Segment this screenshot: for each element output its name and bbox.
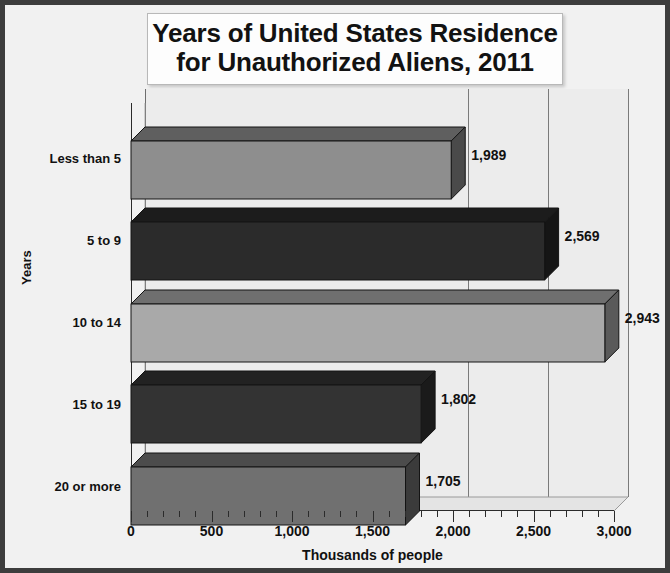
x-axis-major-tick [534,511,535,522]
x-axis-minor-tick [195,511,196,517]
x-axis-minor-tick [163,511,164,517]
x-axis-minor-tick [469,511,470,517]
x-axis-minor-tick [324,511,325,517]
x-axis-minor-tick [228,511,229,517]
x-axis-ticks [131,511,616,523]
x-axis-major-tick [453,511,454,522]
x-axis-major-tick [614,511,615,522]
x-axis-major-tick [212,511,213,522]
x-axis-tick-label: 1,500 [355,523,390,539]
x-axis-major-tick [373,511,374,522]
x-axis-major-tick [292,511,293,522]
x-axis-minor-tick [356,511,357,517]
chart-container: Years of United States Residence for Una… [0,0,670,573]
bar-value-label: 1,705 [426,473,461,489]
x-axis-minor-tick [421,511,422,517]
x-axis-minor-tick [147,511,148,517]
y-axis-tick-label: 15 to 19 [73,397,121,412]
x-axis-minor-tick [550,511,551,517]
x-axis-minor-tick [405,511,406,517]
x-axis-tick-label: 2,500 [516,523,551,539]
bar [131,127,465,199]
y-axis-tick-label: 20 or more [55,479,121,494]
chart-title-line-1: Years of United States Residence [152,19,558,48]
x-axis-tick-label: 1,000 [274,523,309,539]
y-axis-tick-labels: Less than 5 5 to 9 10 to 14 15 to 19 20 … [5,103,121,511]
x-axis-minor-tick [179,511,180,517]
x-axis-minor-tick [389,511,390,517]
bar [131,371,435,443]
bar-value-label: 1,989 [471,147,506,163]
x-axis-minor-tick [244,511,245,517]
bar-value-label: 2,943 [625,310,660,326]
x-axis-tick-label: 500 [200,523,223,539]
x-axis-minor-tick [340,511,341,517]
chart-title: Years of United States Residence for Una… [147,13,563,85]
bar [131,290,619,362]
x-axis-minor-tick [437,511,438,517]
x-axis-tick-label: 0 [127,523,135,539]
y-axis-tick-label: 5 to 9 [87,233,121,248]
x-axis-tick-label: 2,000 [435,523,470,539]
x-axis-title: Thousands of people [131,547,614,563]
bar-3d-faces [131,208,561,282]
y-axis-tick-label: 10 to 14 [73,315,121,330]
x-axis-tick-labels: 05001,0001,5002,0002,5003,000 [5,523,670,545]
bar-value-label: 1,802 [441,391,476,407]
x-axis-minor-tick [276,511,277,517]
chart-title-line-2: for Unauthorized Aliens, 2011 [152,48,558,77]
x-axis-minor-tick [598,511,599,517]
x-axis-minor-tick [308,511,309,517]
x-axis-minor-tick [582,511,583,517]
x-axis-tick-label: 3,000 [596,523,631,539]
bar-value-label: 2,569 [565,228,600,244]
bar-3d-faces [131,290,621,364]
x-axis-minor-tick [501,511,502,517]
x-axis-minor-tick [517,511,518,517]
x-axis-major-tick [131,511,132,522]
bar [131,208,559,280]
gridline-3000 [628,89,629,497]
x-axis-minor-tick [260,511,261,517]
plot-area [131,103,614,511]
x-axis-minor-tick [566,511,567,517]
bar-3d-faces [131,371,437,445]
x-axis-minor-tick [485,511,486,517]
bar-3d-faces [131,127,467,201]
y-axis-tick-label: Less than 5 [49,151,121,166]
